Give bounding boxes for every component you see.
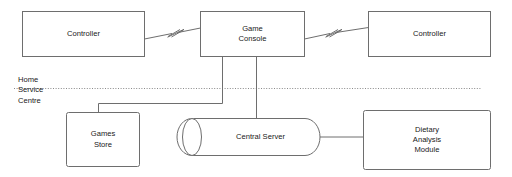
break-bar xyxy=(168,29,185,37)
controller-right-box[interactable] xyxy=(369,12,491,57)
cylinder-left-cap xyxy=(183,119,202,156)
central-server-cylinder[interactable] xyxy=(177,119,320,156)
console-to-controller-right-connector xyxy=(305,28,369,40)
dietary-analysis-module-box[interactable] xyxy=(364,111,491,170)
console-to-games-store-connector xyxy=(99,57,223,113)
break-bar xyxy=(326,29,343,37)
game-console-box[interactable] xyxy=(201,12,305,57)
controller-left-box[interactable] xyxy=(23,12,145,57)
diagram-shapes-layer xyxy=(0,0,512,177)
home-service-centre-zone-label: Home Service Centre xyxy=(18,75,43,106)
system-context-diagram: Controller Game Console Controller Games… xyxy=(0,0,512,177)
controller-left-to-console-connector xyxy=(145,28,201,39)
games-store-box[interactable] xyxy=(67,113,140,167)
